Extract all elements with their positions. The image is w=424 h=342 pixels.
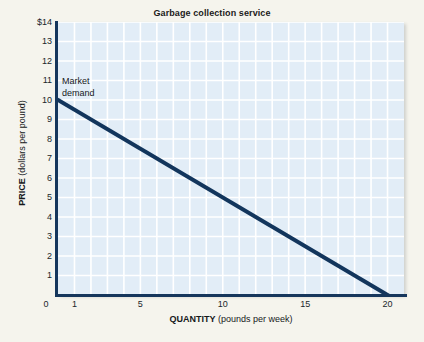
x-axis-title-bold: QUANTITY (169, 314, 215, 324)
y-axis-title-detail-spacer (17, 176, 27, 179)
x-tick-label: 1 (59, 299, 89, 309)
y-axis-title-bold: PRICE (17, 178, 27, 206)
y-axis-title-detail: (dollars per pound) (17, 100, 27, 176)
x-tick-label: 15 (290, 299, 320, 309)
demand-curve (58, 22, 404, 295)
x-axis-line (55, 294, 407, 297)
y-tick-label: 3 (0, 232, 52, 241)
x-tick-label: 0 (31, 299, 61, 309)
chart-figure: Garbage collection service 1234567891011… (0, 0, 424, 342)
chart-title: Garbage collection service (0, 8, 424, 18)
market-demand-annotation: Market demand (62, 76, 95, 99)
x-tick-label: 20 (373, 299, 403, 309)
y-tick-label: 2 (0, 252, 52, 261)
plot-area (58, 22, 404, 295)
y-tick-label: 12 (0, 57, 52, 66)
x-tick-label: 10 (208, 299, 238, 309)
y-tick-label: 1 (0, 271, 52, 280)
x-axis-title: QUANTITY (pounds per week) (58, 314, 404, 324)
x-axis-title-detail: (pounds per week) (218, 314, 293, 324)
y-tick-label: 13 (0, 37, 52, 46)
x-tick-label: 5 (125, 299, 155, 309)
y-axis-line (55, 21, 58, 297)
y-axis-title: PRICE (dollars per pound) (17, 83, 27, 223)
y-tick-label: $14 (0, 18, 52, 27)
